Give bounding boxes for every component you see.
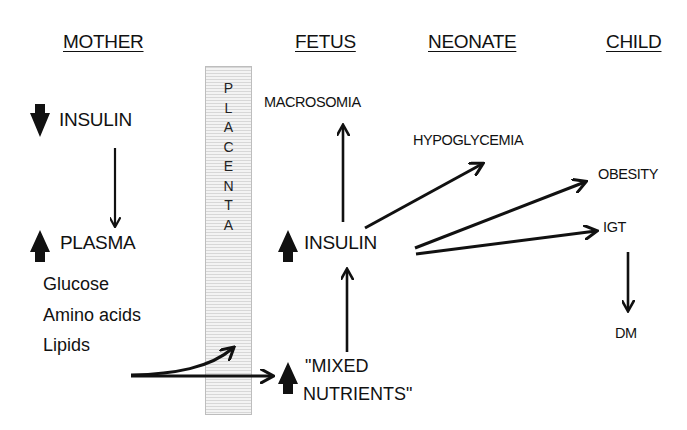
mixed-nutrients-line2: NUTRIENTS": [303, 385, 412, 403]
dm-label: DM: [615, 326, 637, 341]
arrow-nutrients-to-placenta: [131, 348, 233, 375]
down-arrow-icon: [30, 104, 50, 137]
arrow-insulin-to-obesity: [415, 182, 585, 248]
nutrient-amino-acids: Amino acids: [43, 306, 141, 324]
up-arrow-icon: [30, 230, 50, 262]
arrow-insulin-to-igt: [416, 231, 596, 254]
obesity-label: OBESITY: [598, 167, 658, 182]
mother-plasma-label: PLASMA: [60, 233, 135, 252]
hypoglycemia-label: HYPOGLYCEMIA: [413, 133, 523, 148]
fetus-insulin-label: INSULIN: [304, 233, 377, 252]
nutrient-glucose: Glucose: [43, 275, 109, 293]
mother-insulin-label: INSULIN: [59, 110, 132, 129]
igt-label: IGT: [603, 220, 626, 235]
up-arrow-icon: [278, 362, 298, 394]
macrosomia-label: MACROSOMIA: [264, 95, 361, 110]
mixed-nutrients-line1: "MIXED: [305, 357, 368, 375]
up-arrow-icon: [278, 230, 298, 262]
nutrient-lipids: Lipids: [43, 336, 90, 354]
arrow-insulin-to-hypoglycemia: [365, 164, 482, 228]
